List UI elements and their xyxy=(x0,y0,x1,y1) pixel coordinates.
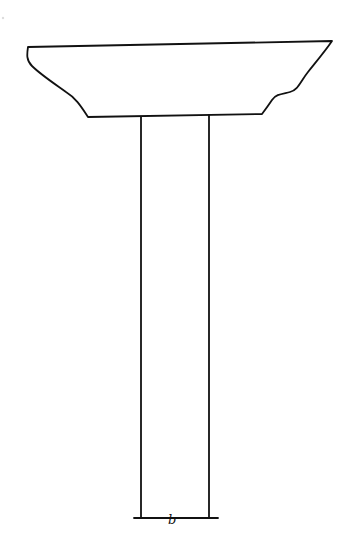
pier-diagram: b xyxy=(0,0,345,554)
scan-speck xyxy=(2,17,4,19)
dimension-label-b: b xyxy=(168,512,176,527)
column xyxy=(141,115,209,518)
base-dimension: b xyxy=(134,512,218,527)
pier-cap xyxy=(27,41,332,117)
